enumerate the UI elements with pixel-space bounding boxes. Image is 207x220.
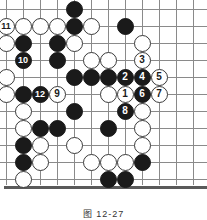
- move-stone-6: 6: [134, 86, 151, 103]
- move-stone-7: 7: [151, 86, 168, 103]
- stone-black: [66, 18, 83, 35]
- stone-black: [15, 35, 32, 52]
- figure-caption: 图 12-27: [0, 207, 207, 220]
- stone-black: [15, 137, 32, 154]
- stone-white: [32, 137, 49, 154]
- stone-white: [83, 154, 100, 171]
- stone-white: [49, 18, 66, 35]
- stone-white: [83, 18, 100, 35]
- stone-black: [66, 103, 83, 120]
- go-board[interactable]: 111032451291678: [0, 0, 207, 205]
- move-stone-4: 4: [134, 69, 151, 86]
- move-stone-2: 2: [117, 69, 134, 86]
- stone-black: [117, 18, 134, 35]
- stone-white: [32, 18, 49, 35]
- stone-black: [49, 35, 66, 52]
- go-board-figure: 111032451291678 图 12-27: [0, 0, 207, 220]
- stone-black: [32, 120, 49, 137]
- stone-white: [15, 171, 32, 188]
- stone-black: [66, 69, 83, 86]
- stone-black: [117, 171, 134, 188]
- stone-black: [15, 86, 32, 103]
- grid-line-vertical: [193, 0, 194, 185]
- stone-black: [49, 120, 66, 137]
- grid-line-vertical: [176, 0, 177, 185]
- stone-white: [66, 35, 83, 52]
- move-stone-9: 9: [49, 86, 66, 103]
- grid-line-horizontal: [0, 9, 207, 10]
- move-stone-11: 11: [0, 18, 15, 35]
- stone-white: [100, 154, 117, 171]
- stone-white: [134, 35, 151, 52]
- stone-white: [32, 154, 49, 171]
- stone-white: [0, 86, 15, 103]
- stone-black: [15, 154, 32, 171]
- stone-white: [83, 52, 100, 69]
- move-stone-3: 3: [134, 52, 151, 69]
- stone-white: [0, 35, 15, 52]
- stone-white: [66, 137, 83, 154]
- move-stone-10: 10: [15, 52, 32, 69]
- stone-black: [100, 171, 117, 188]
- stone-black: [83, 69, 100, 86]
- stone-white: [15, 18, 32, 35]
- stone-black: [49, 52, 66, 69]
- move-stone-8: 8: [117, 103, 134, 120]
- stone-white: [15, 120, 32, 137]
- stone-white: [134, 120, 151, 137]
- stone-black: [66, 1, 83, 18]
- move-stone-12: 12: [32, 86, 49, 103]
- move-stone-1: 1: [117, 86, 134, 103]
- stone-white: [0, 69, 15, 86]
- stone-white: [134, 103, 151, 120]
- stone-white: [117, 154, 134, 171]
- stone-white: [100, 86, 117, 103]
- stone-black: [100, 120, 117, 137]
- stone-white: [134, 137, 151, 154]
- stone-white: [15, 103, 32, 120]
- move-stone-5: 5: [151, 69, 168, 86]
- stone-white: [100, 52, 117, 69]
- stone-black: [100, 69, 117, 86]
- stone-black: [134, 154, 151, 171]
